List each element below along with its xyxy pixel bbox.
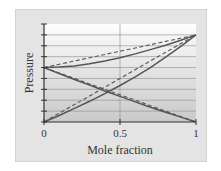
x-tick-label: 0.5 (113, 127, 127, 139)
y-axis-label: Pressure (22, 48, 37, 98)
x-tick-label: 0 (41, 127, 47, 139)
x-axis-label: Mole fraction (87, 143, 153, 158)
x-tick-label: 1 (193, 127, 199, 139)
